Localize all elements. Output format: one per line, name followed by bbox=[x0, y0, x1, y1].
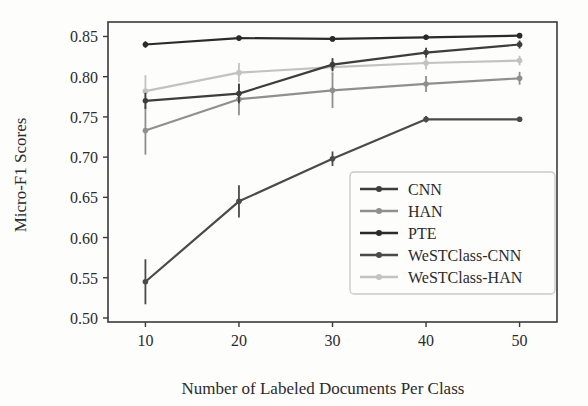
x-tick-label: 50 bbox=[512, 332, 528, 349]
x-tick-label: 20 bbox=[231, 332, 247, 349]
y-axis-label: Micro-F1 Scores bbox=[11, 118, 30, 233]
y-tick-label: 0.65 bbox=[70, 189, 98, 206]
x-axis-label: Number of Labeled Documents Per Class bbox=[182, 379, 465, 398]
x-tick-label: 40 bbox=[418, 332, 434, 349]
y-tick-label: 0.60 bbox=[70, 230, 98, 247]
figure-container: 0.500.550.600.650.700.750.800.85 1020304… bbox=[0, 0, 588, 406]
chart-svg: 0.500.550.600.650.700.750.800.85 1020304… bbox=[0, 0, 588, 406]
y-axis-ticks: 0.500.550.600.650.700.750.800.85 bbox=[70, 28, 108, 327]
y-tick-label: 0.55 bbox=[70, 270, 98, 287]
y-tick-label: 0.75 bbox=[70, 109, 98, 126]
series-han bbox=[143, 72, 523, 155]
y-tick-label: 0.80 bbox=[70, 69, 98, 86]
y-tick-label: 0.70 bbox=[70, 149, 98, 166]
y-tick-label: 0.50 bbox=[70, 310, 98, 327]
legend-item-westclass-han[interactable]: WeSTClass-HAN bbox=[408, 269, 523, 286]
x-tick-label: 30 bbox=[325, 332, 341, 349]
y-tick-label: 0.85 bbox=[70, 28, 98, 45]
legend-item-westclass-cnn[interactable]: WeSTClass-CNN bbox=[408, 247, 522, 264]
legend-item-cnn[interactable]: CNN bbox=[408, 181, 442, 198]
legend-item-pte[interactable]: PTE bbox=[408, 225, 436, 242]
legend-item-han[interactable]: HAN bbox=[408, 203, 443, 220]
series-pte bbox=[143, 33, 523, 48]
legend[interactable]: CNNHANPTEWeSTClass-CNNWeSTClass-HAN bbox=[350, 172, 555, 294]
x-axis-ticks: 1020304050 bbox=[137, 322, 527, 349]
x-tick-label: 10 bbox=[137, 332, 153, 349]
